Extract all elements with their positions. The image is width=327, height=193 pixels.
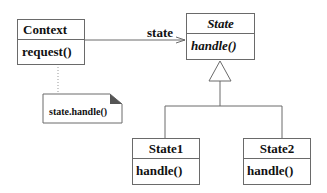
class-name: State1: [133, 139, 199, 159]
class-operation: handle(): [187, 34, 254, 58]
class-operation: handle(): [244, 159, 310, 183]
class-operation: handle(): [133, 159, 199, 183]
class-name: State: [187, 14, 254, 34]
class-operation: request(): [18, 40, 84, 64]
class-name: Context: [18, 20, 84, 40]
class-state2: State2 handle(): [243, 138, 311, 185]
class-state: State handle(): [186, 13, 255, 60]
class-context: Context request(): [17, 19, 85, 65]
class-state1: State1 handle(): [132, 138, 200, 185]
note-text: state.handle(): [49, 106, 107, 117]
inheritance-triangle-icon: [209, 61, 231, 81]
association-label: state: [147, 25, 173, 41]
class-name: State2: [244, 139, 310, 159]
